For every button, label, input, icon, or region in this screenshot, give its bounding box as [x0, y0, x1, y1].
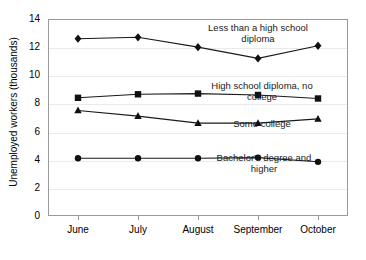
- y-axis-tick-label: 6: [14, 127, 40, 137]
- x-axis-tick-mark: [318, 216, 319, 220]
- y-axis-tick-label: 14: [14, 14, 40, 24]
- square-marker: [135, 91, 141, 97]
- triangle-marker: [314, 115, 321, 122]
- diamond-marker: [255, 54, 262, 62]
- series-annotation-some-college: Some college: [212, 118, 312, 129]
- x-axis-tick-label: October: [278, 224, 358, 235]
- x-axis-tick-mark: [138, 216, 139, 220]
- circle-marker: [75, 155, 81, 161]
- x-axis-tick-mark: [258, 216, 259, 220]
- y-axis-tick-label: 8: [14, 98, 40, 108]
- series-annotation-less-than-high-school: Less than a high school diploma: [196, 22, 320, 44]
- circle-marker: [135, 155, 141, 161]
- y-axis-tick-label: 0: [14, 211, 40, 221]
- series-annotation-high-school-no-college: High school diploma, no college: [196, 80, 328, 102]
- y-axis-tick-label: 12: [14, 42, 40, 52]
- y-axis-tick-label: 4: [14, 155, 40, 165]
- y-axis-tick-label: 10: [14, 70, 40, 80]
- y-axis-tick-label: 2: [14, 183, 40, 193]
- square-marker: [75, 95, 81, 101]
- diamond-marker: [75, 35, 82, 43]
- line-chart: Unemployed workers (thousands) 024681012…: [0, 0, 366, 260]
- diamond-marker: [135, 33, 142, 41]
- triangle-marker: [74, 106, 81, 113]
- series-annotation-bachelors-and-higher: Bachelor's degree and higher: [196, 152, 332, 174]
- x-axis-tick-mark: [78, 216, 79, 220]
- diamond-marker: [195, 43, 202, 51]
- x-axis-tick-mark: [198, 216, 199, 220]
